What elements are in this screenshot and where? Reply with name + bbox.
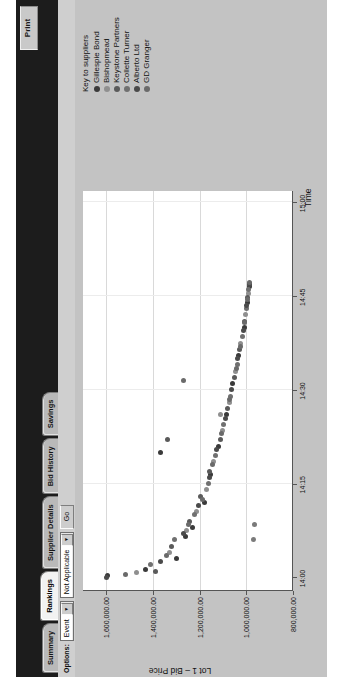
data-point: [214, 447, 219, 452]
data-point: [206, 481, 211, 486]
tab-savings[interactable]: Savings: [42, 392, 58, 437]
data-point: [134, 570, 139, 575]
data-point: [227, 397, 232, 402]
data-point: [158, 559, 163, 564]
data-point: [242, 320, 247, 325]
data-point: [169, 544, 174, 549]
data-point: [230, 381, 235, 386]
data-point: [200, 497, 205, 502]
tab-strip: SummaryRankingsSupplier DetailsBid Histo…: [40, 0, 58, 677]
legend-item-label: Gillespie Bond: [92, 31, 101, 83]
legend-item: Alberto Ltd: [132, 6, 141, 92]
x-axis-tick-label: 14:30: [299, 382, 306, 400]
data-point: [213, 453, 218, 458]
y-axis-tick-label: 800,000.00: [290, 597, 297, 661]
grid-line: [83, 295, 292, 296]
legend-swatch-icon: [114, 86, 120, 92]
data-point: [207, 469, 212, 474]
x-axis-tick-label: 14:15: [299, 476, 306, 494]
y-axis-tick: [293, 591, 294, 595]
y-axis-tick: [153, 591, 154, 595]
data-point: [234, 366, 239, 371]
y-axis-title: Lot 1 – Bid Price: [149, 666, 211, 676]
legend-item-label: Alberto Ltd: [132, 44, 141, 83]
grid-line: [83, 389, 292, 390]
data-point: [232, 375, 237, 380]
legend-item: Keystone Partners: [112, 6, 121, 92]
chevron-down-icon[interactable]: ▼: [61, 534, 73, 546]
y-axis-tick-label: 1,600,000.00: [103, 597, 110, 661]
data-point: [104, 575, 109, 580]
data-point: [174, 556, 179, 561]
data-point: [172, 538, 177, 543]
legend-swatch-icon: [144, 86, 150, 92]
legend-item-label: Keystone Partners: [112, 17, 121, 83]
options-bar: Options: Event ▼ Not Applicable ▼ Go: [58, 0, 76, 677]
data-point: [153, 569, 158, 574]
legend-title: Key to suppliers: [81, 6, 90, 92]
y-axis-tick-label: 1,000,000.00: [243, 597, 250, 661]
legend-items: Gillespie BondBishopmeadKeystone Partner…: [92, 6, 151, 92]
print-button[interactable]: Print: [20, 6, 38, 50]
data-point: [252, 522, 257, 527]
data-point: [218, 413, 223, 418]
title-bar: Print: [16, 0, 40, 677]
data-point: [143, 568, 148, 573]
legend-item: Gillespie Bond: [92, 6, 101, 92]
plot-region: 800,000.001,000,000.001,200,000.001,400,…: [83, 191, 293, 591]
x-axis-tick-label: 14:45: [299, 288, 306, 306]
filter-select-value: Not Applicable: [61, 547, 73, 598]
data-point: [204, 488, 209, 493]
grid-line: [106, 191, 107, 590]
tab-bid-history[interactable]: Bid History: [42, 438, 58, 494]
data-point: [219, 431, 224, 436]
chart-legend: Key to suppliers Gillespie BondBishopmea…: [81, 6, 152, 92]
tab-list: SummaryRankingsSupplier DetailsBid Histo…: [40, 390, 58, 673]
tab-supplier-details[interactable]: Supplier Details: [42, 496, 58, 569]
y-axis-tick-label: 1,200,000.00: [196, 597, 203, 661]
grid-line: [246, 191, 247, 590]
y-axis-tick-label: 1,400,000.00: [150, 597, 157, 661]
data-point: [165, 438, 170, 443]
go-button[interactable]: Go: [60, 505, 74, 529]
x-axis-tick-label: 14:00: [299, 570, 306, 588]
legend-swatch-icon: [104, 86, 110, 92]
data-point: [225, 406, 230, 411]
data-point: [123, 572, 128, 577]
data-point: [235, 356, 240, 361]
x-axis-tick: [293, 296, 297, 297]
x-axis-tick: [293, 484, 297, 485]
window-frame: Print SummaryRankingsSupplier DetailsBid…: [16, 0, 327, 677]
grid-line: [153, 191, 154, 590]
data-point: [221, 422, 226, 427]
tab-summary[interactable]: Summary: [42, 623, 58, 673]
data-point: [207, 475, 212, 480]
filter-select[interactable]: Not Applicable ▼: [60, 532, 74, 599]
legend-item: Bishopmead: [102, 6, 111, 92]
data-point: [196, 503, 201, 508]
legend-item-label: GD Granger: [142, 39, 151, 83]
tab-rankings[interactable]: Rankings: [40, 571, 58, 621]
legend-item: GD Granger: [142, 6, 151, 92]
data-point: [223, 416, 228, 421]
scope-select-value: Event: [61, 616, 73, 640]
data-point: [229, 388, 234, 393]
x-axis-tick: [293, 203, 297, 204]
data-point: [241, 328, 246, 333]
legend-item-label: Collette Turner: [122, 31, 131, 83]
y-axis-tick: [106, 591, 107, 595]
data-point: [192, 513, 197, 518]
options-label: Options:: [63, 644, 70, 673]
data-point: [190, 525, 195, 530]
legend-item-label: Bishopmead: [102, 39, 111, 83]
y-axis-tick: [200, 591, 201, 595]
chevron-down-icon[interactable]: ▼: [61, 603, 73, 615]
data-point: [218, 438, 223, 443]
x-axis-tick: [293, 390, 297, 391]
legend-swatch-icon: [94, 86, 100, 92]
legend-item: Collette Turner: [122, 6, 131, 92]
legend-swatch-icon: [134, 86, 140, 92]
grid-line: [83, 202, 292, 203]
scope-select[interactable]: Event ▼: [60, 601, 74, 641]
data-point: [210, 463, 215, 468]
